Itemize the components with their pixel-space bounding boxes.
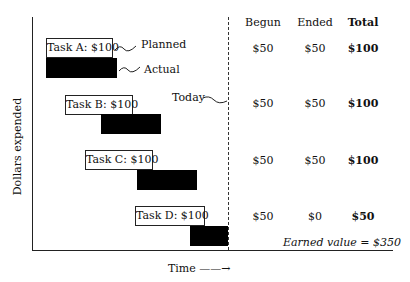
today-pointer-icon [202, 94, 229, 106]
row-c-ended: $50 [290, 154, 340, 167]
row-d-begun: $50 [238, 210, 288, 223]
task-d-planned-box: Task D: $100 [135, 206, 205, 226]
task-c-actual-bar [137, 170, 197, 190]
actual-pointer-icon [118, 63, 146, 75]
task-a-planned-box: Task A: $100 [46, 38, 113, 58]
task-b-actual-bar [101, 114, 161, 134]
row-b-ended: $50 [290, 97, 340, 110]
header-total: Total [338, 16, 388, 29]
x-axis-label: Time ——→ [168, 262, 231, 275]
today-line [228, 17, 229, 250]
row-d-ended: $0 [290, 210, 340, 223]
task-b-planned-box: Task B: $100 [65, 95, 133, 115]
y-axis-label: Dollars expended [11, 92, 24, 202]
row-a-ended: $50 [290, 42, 340, 55]
y-axis [32, 17, 33, 250]
row-c-begun: $50 [238, 154, 288, 167]
today-label: Today [172, 91, 205, 104]
planned-label: Planned [141, 38, 186, 51]
row-c-total: $100 [338, 154, 388, 167]
row-b-begun: $50 [238, 97, 288, 110]
task-c-planned-box: Task C: $100 [85, 150, 153, 170]
row-a-total: $100 [338, 42, 388, 55]
header-ended: Ended [290, 16, 340, 29]
task-a-actual-bar [46, 58, 117, 78]
actual-label: Actual [144, 63, 180, 76]
header-begun: Begun [238, 16, 288, 29]
row-a-begun: $50 [238, 42, 288, 55]
row-b-total: $100 [338, 97, 388, 110]
x-axis [32, 250, 393, 251]
planned-pointer-icon [114, 42, 142, 54]
row-d-total: $50 [338, 210, 388, 223]
earned-value: Earned value = $350 [283, 236, 401, 249]
task-d-actual-bar [190, 226, 228, 246]
